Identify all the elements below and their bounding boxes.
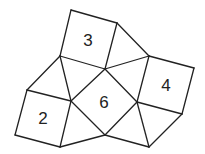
edge-I-J (27, 90, 71, 101)
square-label-4: 4 (161, 76, 170, 95)
edge-D-J (60, 56, 71, 101)
edge-J-K (60, 101, 71, 147)
diagram-canvas: 3 4 2 6 (0, 0, 205, 154)
edge-A-B (71, 10, 117, 23)
edge-K-L (15, 135, 60, 147)
edge-H-N (137, 102, 149, 147)
edge-C-D (60, 56, 105, 69)
edge-C-H (105, 69, 137, 102)
edge-C-E (105, 56, 149, 69)
edge-K-M (60, 135, 105, 147)
square-label-3: 3 (83, 31, 92, 50)
labels-group: 3 4 2 6 (38, 31, 170, 128)
square-label-2: 2 (38, 109, 47, 128)
edge-E-F (149, 56, 194, 68)
edge-I-L (15, 90, 27, 135)
edge-G-N (149, 114, 182, 147)
edge-B-C (105, 23, 117, 69)
edge-F-G (182, 68, 194, 114)
edge-D-I (27, 56, 60, 90)
edge-B-E (117, 23, 149, 56)
square-label-6: 6 (99, 93, 108, 112)
edge-G-H (137, 102, 182, 114)
edge-M-N (105, 135, 149, 147)
tessellation-diagram: 3 4 2 6 (0, 0, 205, 154)
edge-E-H (137, 56, 149, 102)
edge-H-M (105, 102, 137, 135)
edge-A-D (60, 10, 71, 56)
